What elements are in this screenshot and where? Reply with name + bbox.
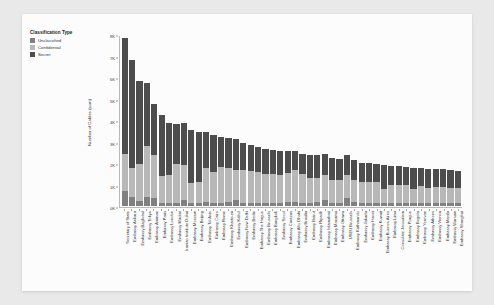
- bar-segment-secret[interactable]: [151, 104, 157, 155]
- bar-segment-confidential[interactable]: [181, 165, 187, 200]
- x-axis-label-item[interactable]: Embassy Kuwait: [373, 209, 379, 285]
- bar-column[interactable]: [351, 36, 357, 206]
- bar-segment-unclassified[interactable]: [218, 203, 224, 206]
- bar-segment-secret[interactable]: [136, 81, 142, 164]
- bar-segment-confidential[interactable]: [388, 185, 394, 203]
- bar-segment-secret[interactable]: [359, 163, 365, 182]
- bar-segment-unclassified[interactable]: [129, 197, 135, 207]
- bar-column[interactable]: [366, 36, 372, 206]
- x-axis-label-item[interactable]: Embassy Paris: [158, 209, 164, 285]
- bar-segment-secret[interactable]: [225, 138, 231, 168]
- bar-segment-secret[interactable]: [388, 166, 394, 185]
- x-axis-label-item[interactable]: Embassy Amman: [150, 209, 156, 285]
- bar-segment-secret[interactable]: [285, 151, 291, 173]
- bar-segment-confidential[interactable]: [240, 170, 246, 203]
- bar-segment-unclassified[interactable]: [366, 203, 372, 206]
- bar-column[interactable]: [455, 36, 461, 206]
- bar-segment-confidential[interactable]: [329, 180, 335, 203]
- x-axis-label-item[interactable]: Embassy Rome: [217, 209, 223, 285]
- bar-segment-unclassified[interactable]: [329, 203, 335, 206]
- bar-segment-secret[interactable]: [322, 154, 328, 175]
- bar-segment-unclassified[interactable]: [188, 203, 194, 206]
- x-axis-label-item[interactable]: Embassy Baghdad: [135, 209, 141, 285]
- x-axis-label-item[interactable]: Embassy Shanghai: [455, 209, 461, 285]
- bar-column[interactable]: [373, 36, 379, 206]
- bar-segment-confidential[interactable]: [203, 168, 209, 202]
- bar-column[interactable]: [210, 36, 216, 206]
- bar-segment-unclassified[interactable]: [381, 203, 387, 206]
- bar-segment-confidential[interactable]: [425, 188, 431, 203]
- bar-segment-secret[interactable]: [129, 60, 135, 167]
- bar-segment-unclassified[interactable]: [425, 203, 431, 206]
- bar-segment-unclassified[interactable]: [447, 203, 453, 206]
- bar-segment-unclassified[interactable]: [433, 203, 439, 206]
- bar-column[interactable]: [285, 36, 291, 206]
- bar-column[interactable]: [359, 36, 365, 206]
- x-axis-label-item[interactable]: Embassy London: [165, 209, 171, 285]
- x-axis-label-item[interactable]: Embassy Tel Aviv: [202, 209, 208, 285]
- x-axis-label-item[interactable]: USEU Brussels: [344, 209, 350, 285]
- bar-column[interactable]: [173, 36, 179, 206]
- bar-column[interactable]: [188, 36, 194, 206]
- bar-segment-confidential[interactable]: [314, 178, 320, 202]
- bar-segment-unclassified[interactable]: [240, 203, 246, 206]
- x-axis-label-item[interactable]: Embassy Kabul: [232, 209, 238, 285]
- bar-segment-unclassified[interactable]: [322, 200, 328, 206]
- bar-segment-secret[interactable]: [188, 130, 194, 183]
- bar-segment-secret[interactable]: [373, 164, 379, 182]
- bar-segment-secret[interactable]: [173, 124, 179, 163]
- bar-segment-secret[interactable]: [455, 171, 461, 188]
- bar-column[interactable]: [381, 36, 387, 206]
- bar-segment-secret[interactable]: [396, 166, 402, 185]
- bar-column[interactable]: [418, 36, 424, 206]
- bar-segment-secret[interactable]: [314, 155, 320, 177]
- x-axis-label-item[interactable]: Embassy Caracas: [284, 209, 290, 285]
- bar-column[interactable]: [329, 36, 335, 206]
- bar-segment-confidential[interactable]: [159, 176, 165, 203]
- bar-column[interactable]: [225, 36, 231, 206]
- x-axis-label-item[interactable]: Embassy Islamabad: [321, 209, 327, 285]
- bar-segment-secret[interactable]: [307, 155, 313, 177]
- bar-segment-unclassified[interactable]: [144, 197, 150, 206]
- bar-segment-secret[interactable]: [166, 123, 172, 175]
- bar-column[interactable]: [136, 36, 142, 206]
- bar-segment-confidential[interactable]: [122, 154, 128, 191]
- bar-column[interactable]: [181, 36, 187, 206]
- bar-segment-confidential[interactable]: [210, 172, 216, 203]
- bar-segment-secret[interactable]: [277, 151, 283, 175]
- bar-segment-secret[interactable]: [255, 147, 261, 173]
- x-axis-label-item[interactable]: Embassy Riyadh: [314, 209, 320, 285]
- bar-segment-confidential[interactable]: [218, 167, 224, 203]
- bar-column[interactable]: [299, 36, 305, 206]
- bar-segment-confidential[interactable]: [396, 185, 402, 203]
- bar-segment-confidential[interactable]: [233, 170, 239, 200]
- bar-column[interactable]: [248, 36, 254, 206]
- bar-segment-unclassified[interactable]: [210, 203, 216, 206]
- bar-segment-confidential[interactable]: [381, 189, 387, 203]
- x-axis-label-item[interactable]: Embassy Beijing: [195, 209, 201, 285]
- bar-column[interactable]: [344, 36, 350, 206]
- bar-segment-confidential[interactable]: [166, 175, 172, 203]
- bar-segment-confidential[interactable]: [344, 175, 350, 197]
- bar-segment-confidential[interactable]: [455, 188, 461, 203]
- x-axis-label-item[interactable]: Embassy Ankara: [128, 209, 134, 285]
- bar-column[interactable]: [196, 36, 202, 206]
- x-axis-label-item[interactable]: Embassy New Delhi: [240, 209, 246, 285]
- bar-segment-unclassified[interactable]: [262, 203, 268, 206]
- x-axis-label-item[interactable]: Embassy Brasilia: [299, 209, 305, 285]
- bar-segment-confidential[interactable]: [144, 146, 150, 197]
- bar-segment-unclassified[interactable]: [270, 203, 276, 206]
- bar-segment-unclassified[interactable]: [181, 200, 187, 206]
- bar-segment-confidential[interactable]: [277, 175, 283, 203]
- bar-column[interactable]: [440, 36, 446, 206]
- bar-column[interactable]: [396, 36, 402, 206]
- bar-segment-secret[interactable]: [122, 38, 128, 154]
- x-axis-label-item[interactable]: Embassy Yerevan: [418, 209, 424, 285]
- bar-column[interactable]: [403, 36, 409, 206]
- bar-segment-confidential[interactable]: [285, 173, 291, 202]
- x-axis-label-item[interactable]: Embassy The Hague: [254, 209, 260, 285]
- bar-segment-unclassified[interactable]: [299, 203, 305, 206]
- bar-segment-confidential[interactable]: [292, 170, 298, 202]
- bar-column[interactable]: [233, 36, 239, 206]
- bar-column[interactable]: [262, 36, 268, 206]
